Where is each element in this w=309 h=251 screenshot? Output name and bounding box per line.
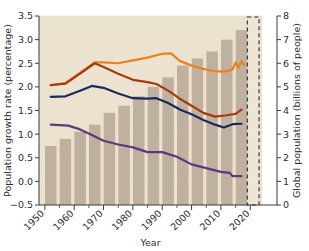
y-tick-label-right: 0 — [283, 199, 289, 210]
y-tick-label-left: 3.0 — [18, 34, 33, 45]
x-tick-label: 2000 — [168, 208, 193, 233]
bar — [192, 59, 204, 205]
chart-canvas: 3.53.02.52.01.51.00.50.0−0.5876543210195… — [0, 0, 309, 251]
population-growth-chart: 3.53.02.52.01.51.00.50.0−0.5876543210195… — [0, 0, 309, 251]
y-tick-label-right: 5 — [283, 81, 289, 92]
x-tick-label: 1950 — [21, 208, 46, 233]
projection-box — [247, 17, 259, 205]
bar — [221, 40, 233, 205]
y-tick-label-left: 3.5 — [18, 10, 33, 21]
y-tick-label-left: −0.5 — [10, 199, 33, 210]
x-tick-label: 1980 — [109, 208, 134, 233]
x-tick-label: 1960 — [51, 208, 76, 233]
x-axis-title: Year — [139, 237, 160, 248]
bar — [74, 132, 86, 205]
y-tick-label-left: 0.0 — [18, 176, 33, 187]
bar — [60, 139, 72, 205]
y-axis-title-left: Population growth rate (percentage) — [2, 24, 13, 197]
y-tick-label-right: 8 — [283, 10, 289, 21]
bar — [45, 146, 57, 205]
y-tick-label-left: 0.5 — [18, 152, 33, 163]
x-tick-label: 1990 — [139, 208, 164, 233]
y-tick-label-left: 2.0 — [18, 81, 33, 92]
y-tick-label-right: 2 — [283, 152, 289, 163]
bar — [236, 30, 248, 205]
bar — [118, 106, 130, 205]
y-tick-label-left: 2.5 — [18, 58, 33, 69]
bar — [162, 77, 174, 205]
x-tick-label: 1970 — [80, 208, 105, 233]
y-tick-label-right: 7 — [283, 34, 289, 45]
y-tick-label-right: 6 — [283, 58, 289, 69]
bar — [206, 51, 218, 205]
y-tick-label-left: 1.5 — [18, 105, 33, 116]
y-tick-label-right: 1 — [283, 176, 289, 187]
y-tick-label-right: 3 — [283, 129, 289, 140]
y-axis-title-right: Global population (billions of people) — [291, 23, 302, 198]
y-tick-label-left: 1.0 — [18, 129, 33, 140]
bar — [177, 66, 189, 205]
bar — [104, 113, 116, 205]
bar — [148, 87, 160, 205]
x-tick-label: 2010 — [197, 208, 222, 233]
x-tick-label: 2020 — [227, 208, 252, 233]
y-tick-label-right: 4 — [283, 105, 289, 116]
